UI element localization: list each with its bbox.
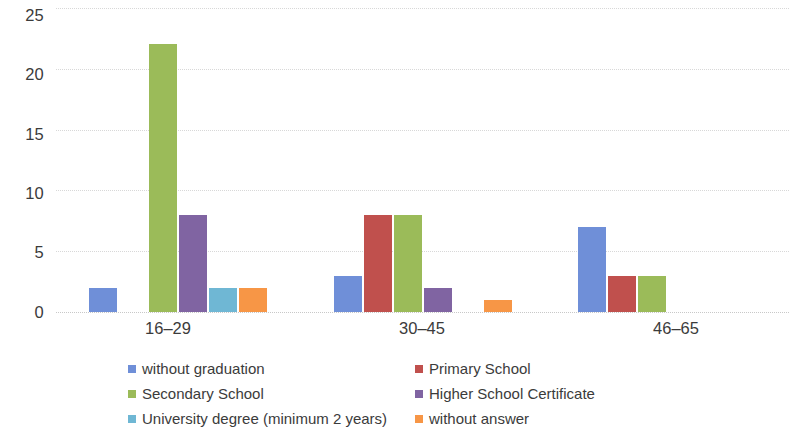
- legend-item-primary-school[interactable]: Primary School: [415, 360, 531, 378]
- bar-30-45-higher-school-certificate: [424, 288, 452, 312]
- legend-item-higher-school-certificate[interactable]: Higher School Certificate: [415, 385, 595, 403]
- bar-46-65-without-graduation: [578, 227, 606, 312]
- y-tick-label-25: 25: [0, 7, 44, 24]
- bar-16-29-university-degree-minimum-2-years: [209, 288, 237, 312]
- legend-label-secondary-school: Secondary School: [142, 385, 264, 403]
- y-tick-label-5: 5: [0, 244, 44, 261]
- bar-30-45-secondary-school: [394, 215, 422, 312]
- legend-label-higher-school-certificate: Higher School Certificate: [429, 385, 595, 403]
- legend-item-secondary-school[interactable]: Secondary School: [128, 385, 264, 403]
- legend-label-university-degree: University degree (minimum 2 years): [142, 410, 387, 428]
- x-category-label-1: 30–45: [399, 318, 445, 338]
- bar-46-65-secondary-school: [638, 276, 666, 312]
- legend-item-university-degree[interactable]: University degree (minimum 2 years): [128, 410, 387, 428]
- legend-label-primary-school: Primary School: [429, 360, 531, 378]
- legend-label-without-answer: without answer: [429, 410, 529, 428]
- bar-16-29-without-graduation: [89, 288, 117, 312]
- y-axis-labels: 25 20 15 10 5 0: [0, 0, 44, 320]
- legend-swatch-without-answer: [415, 415, 423, 423]
- x-category-label-2: 46–65: [653, 318, 699, 338]
- gridline-0-baseline: [56, 312, 789, 313]
- bars-layer: [56, 8, 789, 312]
- legend-item-without-graduation[interactable]: without graduation: [128, 360, 265, 378]
- bar-46-65-primary-school: [608, 276, 636, 312]
- y-tick-label-10: 10: [0, 185, 44, 202]
- bar-16-29-higher-school-certificate: [179, 215, 207, 312]
- legend-item-without-answer[interactable]: without answer: [415, 410, 529, 428]
- bar-chart: 25 20 15 10 5 0 16–29 30–45 46–65 withou…: [0, 0, 795, 436]
- bar-30-45-without-graduation: [334, 276, 362, 312]
- legend-swatch-without-graduation: [128, 365, 136, 373]
- y-tick-label-0: 0: [0, 304, 44, 321]
- legend-swatch-university-degree: [128, 415, 136, 423]
- bar-16-29-without-answer: [239, 288, 267, 312]
- x-axis-labels: 16–29 30–45 46–65: [56, 318, 789, 346]
- legend-swatch-higher-school-certificate: [415, 390, 423, 398]
- legend-swatch-secondary-school: [128, 390, 136, 398]
- legend-swatch-primary-school: [415, 365, 423, 373]
- legend-label-without-graduation: without graduation: [142, 360, 265, 378]
- bar-16-29-secondary-school: [149, 44, 177, 312]
- x-category-label-0: 16–29: [145, 318, 191, 338]
- bar-30-45-without-answer: [484, 300, 512, 312]
- y-tick-label-20: 20: [0, 66, 44, 83]
- bar-30-45-primary-school: [364, 215, 392, 312]
- chart-legend: without graduation Primary School Second…: [128, 360, 688, 430]
- y-tick-label-15: 15: [0, 126, 44, 143]
